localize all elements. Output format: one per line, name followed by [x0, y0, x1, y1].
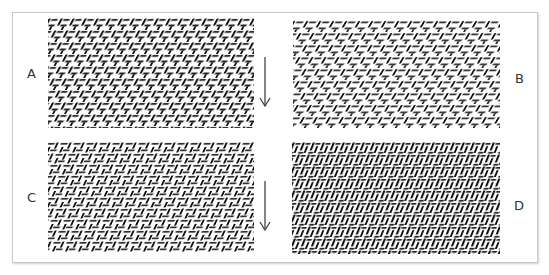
down-arrow-icon	[258, 56, 272, 112]
down-arrow-icon	[258, 180, 272, 236]
panel-label-a: A	[27, 66, 36, 81]
texture-panel-b	[293, 20, 500, 128]
panel-label-d: D	[514, 198, 524, 213]
texture-panel-d	[292, 142, 500, 254]
texture-panel-a	[48, 18, 254, 128]
panel-label-c: C	[27, 190, 36, 205]
panel-label-b: B	[515, 71, 524, 86]
texture-panel-c	[48, 142, 254, 252]
